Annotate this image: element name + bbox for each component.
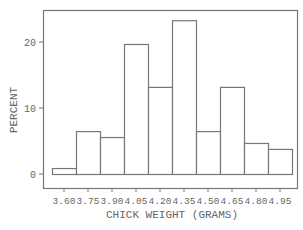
histogram-bar xyxy=(101,138,125,175)
histogram-chart: 01020 3.603.753.904.054.204.354.504.654.… xyxy=(0,0,303,230)
histogram-bar xyxy=(53,169,77,175)
x-tick-label: 4.35 xyxy=(173,196,196,207)
x-tick-label: 4.20 xyxy=(149,196,172,207)
x-tick-label: 4.50 xyxy=(197,196,220,207)
y-tick-label: 10 xyxy=(24,104,36,115)
x-tick-label: 4.80 xyxy=(245,196,268,207)
histogram-bars xyxy=(53,21,293,175)
y-axis-ticks: 01020 xyxy=(24,38,44,181)
x-axis-label: CHICK WEIGHT (GRAMS) xyxy=(106,209,238,221)
histogram-bar xyxy=(221,87,245,174)
x-axis-ticks: 3.603.753.904.054.204.354.504.654.804.95 xyxy=(53,188,292,207)
x-tick-label: 4.95 xyxy=(269,196,292,207)
histogram-bar xyxy=(245,143,269,174)
x-tick-label: 3.75 xyxy=(77,196,100,207)
x-tick-label: 3.60 xyxy=(53,196,76,207)
x-tick-label: 3.90 xyxy=(101,196,124,207)
histogram-bar xyxy=(77,132,101,175)
histogram-bar xyxy=(197,132,221,175)
x-tick-label: 4.05 xyxy=(125,196,148,207)
y-tick-label: 20 xyxy=(24,38,36,49)
histogram-bar xyxy=(269,149,293,174)
y-axis-label: PERCENT xyxy=(8,87,20,134)
histogram-bar xyxy=(125,44,149,174)
y-tick-label: 0 xyxy=(30,170,36,181)
histogram-bar xyxy=(173,21,197,175)
x-tick-label: 4.65 xyxy=(221,196,244,207)
histogram-bar xyxy=(149,87,173,174)
